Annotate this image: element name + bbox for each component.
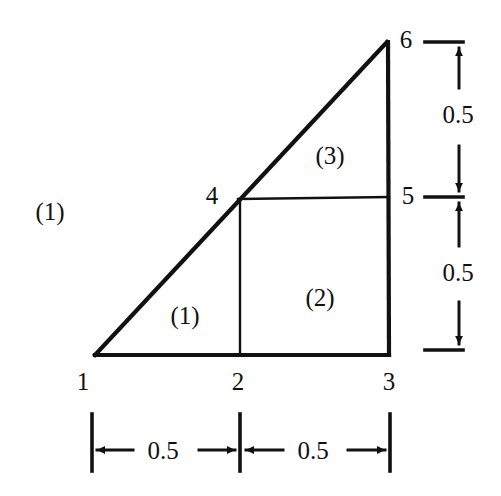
edge-right-6-3 — [388, 42, 389, 355]
body-label: (1) — [35, 199, 64, 224]
mesh-drawing — [0, 0, 501, 496]
vertical-dimension-label-upper: 0.5 — [442, 102, 473, 127]
node-label-5: 5 — [402, 183, 415, 208]
node-label-4: 4 — [206, 183, 219, 208]
interior-mesh-lines — [238, 197, 389, 355]
vertical-dimension-label-lower: 0.5 — [442, 260, 473, 285]
node-label-6: 6 — [400, 27, 413, 52]
element-label-2: (2) — [305, 285, 334, 310]
vertical-dimension-group — [425, 42, 463, 350]
mesh-figure: 1 2 3 4 5 6 (1) (2) (3) (1) 0.5 0.5 0.5 … — [0, 0, 501, 496]
horizontal-dimension-group — [92, 414, 390, 471]
node-label-2: 2 — [232, 369, 245, 394]
horizontal-dimension-label-right: 0.5 — [297, 438, 328, 463]
horizontal-dimension-label-left: 0.5 — [147, 438, 178, 463]
element-label-3: (3) — [315, 143, 344, 168]
node-label-1: 1 — [77, 369, 90, 394]
element-label-1: (1) — [170, 303, 199, 328]
node-label-3: 3 — [383, 369, 396, 394]
edge-4-5 — [238, 197, 389, 199]
